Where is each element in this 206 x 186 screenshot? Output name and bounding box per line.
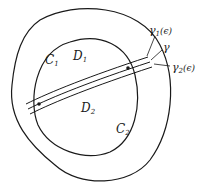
- intersection-point-right: [126, 66, 130, 70]
- label-D2: D2: [80, 101, 96, 116]
- gamma2-curve: [30, 67, 152, 114]
- diagram-canvas: C1 D1 D2 C2 γ1(ϵ) γ γ2(ϵ): [0, 0, 206, 186]
- intersection-point-left: [37, 102, 41, 106]
- label-D1: D1: [72, 49, 87, 64]
- label-C1: C1: [45, 53, 59, 68]
- label-gamma2: γ2(ϵ): [172, 61, 196, 75]
- label-gamma1: γ1(ϵ): [149, 24, 173, 38]
- label-C2: C2: [116, 122, 130, 137]
- gamma1-arrow: [147, 36, 155, 56]
- gamma-arrow: [151, 50, 162, 60]
- label-gamma: γ: [163, 41, 170, 54]
